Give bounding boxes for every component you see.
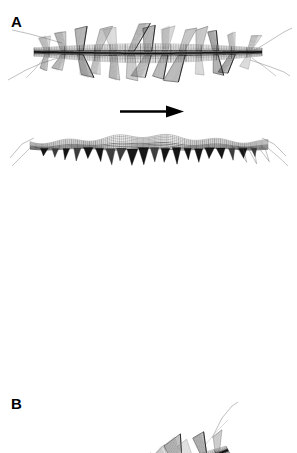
panel-a-arrow-region: [0, 100, 297, 124]
panel-b-oblique-view: [0, 400, 297, 453]
dorsal-view-drawing: [0, 8, 297, 98]
lateral-view-drawing: [0, 122, 297, 180]
panel-b: B: [0, 196, 297, 453]
panel-a: A: [0, 0, 297, 196]
panel-a-lateral-view: [0, 122, 297, 180]
panel-a-dorsal-view: [0, 8, 297, 98]
direction-arrow-icon: [0, 100, 297, 124]
oblique-view-drawing: [0, 400, 297, 453]
figure-root: A B: [0, 0, 297, 453]
